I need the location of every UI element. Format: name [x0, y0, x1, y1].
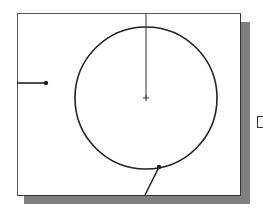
circle-point-dot-icon[interactable]: [157, 165, 161, 169]
tangent-line-entity[interactable]: [145, 167, 159, 195]
endpoint-dot-icon[interactable]: [44, 81, 48, 85]
sketch-canvas: [0, 0, 263, 213]
partial-bracket-icon: [257, 116, 263, 128]
center-marker-icon: [143, 95, 149, 101]
